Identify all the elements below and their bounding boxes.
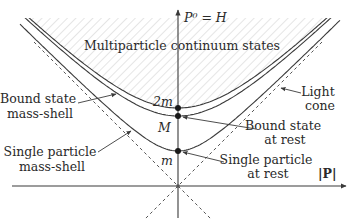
bound-state-at-rest-label: Bound state at rest xyxy=(245,118,325,147)
two-m-label: 2m xyxy=(152,94,173,109)
two-particle-threshold-point xyxy=(175,105,181,111)
bound-state-mass-shell-pointer xyxy=(78,94,116,103)
single-particle-mass-shell-pointer xyxy=(98,131,131,152)
single-particle-mass-shell-label: Single particle mass-shell xyxy=(4,144,101,174)
momentum-axis-label: |P| xyxy=(318,166,337,181)
bound-state-rest-point xyxy=(175,113,181,119)
light-cone-pointer xyxy=(281,88,301,93)
bound-state-mass-shell-label: Bound state mass-shell xyxy=(0,91,80,121)
energy-axis-label: P⁰ = H xyxy=(183,10,228,25)
single-particle-rest-point xyxy=(175,148,181,154)
continuum-label: Multiparticle continuum states xyxy=(84,38,280,53)
spectrum-diagram: P⁰ = H |P| Multiparticle continuum state… xyxy=(0,0,350,220)
light-cone-label: Light cone xyxy=(301,84,338,113)
bound-mass-label: M xyxy=(157,120,172,135)
single-particle-at-rest-pointer xyxy=(183,152,224,162)
single-particle-at-rest-label: Single particle at rest xyxy=(220,152,317,181)
single-mass-label: m xyxy=(161,153,173,168)
origin-point xyxy=(176,184,180,188)
